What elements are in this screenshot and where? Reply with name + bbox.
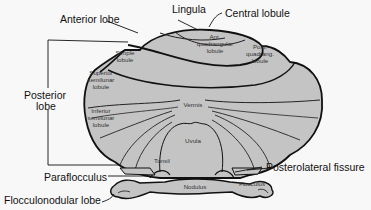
label-uvula: Uvula [180,138,206,145]
label-anterior-lobe: Anterior lobe [60,14,120,25]
label-lingula: Lingula [172,4,206,15]
label-simple-lobule: Simple lobule [110,50,140,64]
label-posterolateral-fissure: Posterolateral fissure [266,162,365,173]
label-ant-quadrangular-lobule: Ant. quadrangular lobule [190,34,240,55]
label-posterior-lobe-line1: Posterior [24,90,66,101]
label-central-lobule: Central lobule [225,8,290,19]
cerebellum-diagram: Lingula Central lobule Anterior lobe Pos… [0,0,371,210]
label-vermis: Vermis [178,102,208,109]
label-tonsil: Tonsil [149,158,175,165]
label-flocculonodular-lobe: Flocculonodular lobe [4,195,101,206]
label-paraflocculus: Paraflocculus [44,172,107,183]
label-post-quadrangular-lobule: Post. quadrang. lobule [240,44,280,65]
label-superior-semilunar-lobule: Superior semilunar lobule [78,70,124,91]
label-flocculus: Flocculus [235,181,269,188]
label-nodulus: Nodulus [180,184,210,191]
label-inferior-semilunar-lobule: Inferior semilunar lobule [78,108,124,129]
label-posterior-lobe-line2: lobe [36,101,56,112]
